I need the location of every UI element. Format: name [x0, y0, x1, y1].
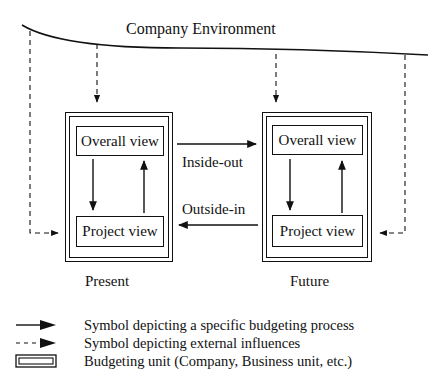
- outside-in-label: Outside-in: [182, 202, 245, 217]
- legend-item-process: Symbol depicting a specific budgeting pr…: [14, 316, 58, 334]
- present-overall-view-box: Overall view: [76, 126, 164, 156]
- external-influence-left-outer: [30, 31, 58, 233]
- dashed-arrow-icon: [14, 336, 58, 350]
- budgeting-unit-icon: [14, 354, 58, 368]
- legend-text-process: Symbol depicting a specific budgeting pr…: [84, 317, 354, 334]
- legend-text-unit: Budgeting unit (Company, Business unit, …: [84, 353, 352, 370]
- external-influence-right-outer: [380, 55, 405, 233]
- solid-arrow-icon: [14, 318, 58, 332]
- legend-text-external: Symbol depicting external influences: [84, 335, 300, 352]
- future-project-view-box: Project view: [272, 215, 363, 247]
- inside-out-label: Inside-out: [182, 155, 243, 170]
- company-environment-label: Company Environment: [126, 21, 276, 37]
- legend-item-unit: Budgeting unit (Company, Business unit, …: [14, 352, 58, 370]
- present-label: Present: [85, 274, 129, 289]
- future-overall-view-box: Overall view: [272, 125, 363, 155]
- legend-item-external: Symbol depicting external influences: [14, 334, 58, 352]
- present-project-view-box: Project view: [76, 216, 164, 247]
- future-label: Future: [290, 274, 329, 289]
